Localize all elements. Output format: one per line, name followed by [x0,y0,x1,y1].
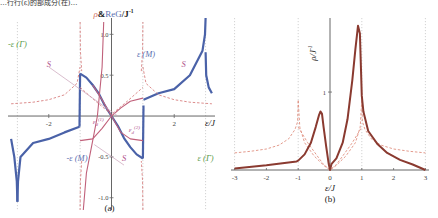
annotation-label: S [122,153,127,163]
x-tick-label: 2 [172,120,176,128]
x-tick-label: -1 [295,174,301,182]
series-line [11,139,17,202]
x-tick-label: -2 [46,120,52,128]
x-tick-label: 0 [328,174,332,182]
annotation-label: εd(1) [93,117,104,127]
y-tick-label: 1 [323,89,326,96]
series-line [17,127,79,202]
x-tick-label: 1 [360,174,364,182]
annotation-label: ε (Γ) [198,153,214,163]
annotation-label: εd(2) [129,125,140,135]
figure: -221.00.5-0.5-1.0-ε (Γ)ε (M)-ε (M)ε (Γ)S… [0,0,438,218]
series-line [80,74,111,116]
series-line [80,74,81,127]
annotation-label: -ε (Γ) [8,39,27,49]
annotation-label: -ε (M) [66,153,87,163]
series-line [83,116,97,210]
x-tick-label: 2 [392,174,396,182]
x-tick-label: 3 [424,174,428,182]
series-line [11,67,80,104]
panel-label-b: (b) [325,194,336,204]
series-line [80,116,111,141]
y-tick-label: -0.5 [98,153,108,160]
x-tick-label: -2 [263,174,269,182]
panel-a-plot: -221.00.5-0.5-1.0-ε (Γ)ε (M)-ε (M)ε (Γ)S… [8,8,216,213]
series-line [143,105,144,158]
annotation-label: S [47,59,52,69]
series-line [93,85,143,141]
panel-label-a: (a) [105,203,115,213]
series-line [206,52,212,93]
annotation-label: S [182,59,187,69]
x-axis-label: ε/J [325,183,336,193]
x-tick-label: -3 [232,174,238,182]
x-axis-label: ε/J [205,118,216,128]
y-axis-label: ρ/J-1 [307,45,318,62]
y-tick-label: -1.0 [98,194,108,201]
y-tick-label: 1.0 [100,31,108,38]
y-axis-label: ρ&ReG/J-1 [93,8,134,19]
annotation-label: ε (M) [137,49,155,59]
panel-b-plot: -3-2-101231ρ/J-1ε/J(b) [231,18,429,204]
